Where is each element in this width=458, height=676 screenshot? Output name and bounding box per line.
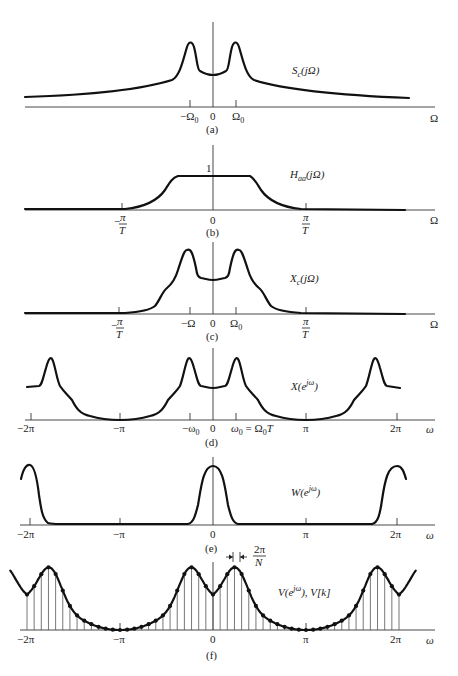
panel-e-curve [21, 465, 406, 524]
panel-d-tick-neg-omega0: −ω0 [182, 422, 199, 437]
panel-f: 2π N V(ejω), V[k] −2π −π 0 π 2π ω (f) [10, 543, 435, 662]
panel-a-function-label: Sc(jΩ) [292, 64, 320, 79]
panel-b-axis-label: Ω [430, 214, 438, 226]
panel-a-tick-neg-omega0: −Ω0 [180, 110, 198, 125]
panel-b-tick-pi-over-t: π T [302, 211, 310, 236]
panel-c-tick-omega0: Ω0 [230, 317, 242, 332]
panel-b-caption: (b) [206, 226, 219, 239]
panel-d-tick-2pi: 2π [390, 422, 402, 434]
panel-f-spacing-annotation: 2π N [226, 543, 266, 568]
svg-text:T: T [302, 224, 309, 236]
spectral-analysis-figure: Sc(jΩ) −Ω0 0 Ω0 Ω (a) 1 Haa(jΩ) − π T 0 … [0, 0, 458, 676]
panel-e-axis-label: ω [426, 529, 434, 541]
svg-text:π: π [120, 211, 126, 223]
panel-d-tick-neg-pi: −π [113, 422, 125, 434]
panel-e-tick-neg-pi: −π [113, 528, 125, 540]
panel-c-tick-zero: 0 [210, 317, 216, 329]
panel-e-function-label: W(ejω) [291, 484, 321, 499]
panel-a-axis-label: Ω [430, 112, 438, 124]
panel-b-curve [25, 176, 405, 210]
panel-d: X(ejω) −2π −π −ω0 0 ω0 = Ω0T π 2π ω (d) [17, 348, 435, 449]
panel-f-tick-zero: 0 [210, 633, 216, 645]
panel-d-tick-zero: 0 [210, 422, 216, 434]
panel-a: Sc(jΩ) −Ω0 0 Ω0 Ω (a) [25, 22, 438, 136]
panel-d-axis-label: ω [426, 423, 434, 435]
svg-text:π: π [303, 315, 309, 327]
panel-e-tick-neg-2pi: −2π [17, 528, 35, 540]
panel-f-function-label: V(ejω), V[k] [278, 584, 330, 599]
svg-text:N: N [254, 556, 263, 568]
panel-e: W(ejω) −2π −π 0 π 2π ω (e) [17, 457, 435, 555]
svg-text:2π: 2π [254, 543, 266, 555]
svg-text:T: T [302, 328, 309, 340]
svg-text:π: π [117, 315, 123, 327]
panel-c-tick-neg-omega: −Ω [181, 317, 195, 329]
panel-c: Xc(jΩ) − π T −Ω 0 Ω0 π T Ω (c) [25, 242, 438, 343]
panel-c-tick-neg-pi-over-t: − π T [111, 315, 124, 340]
panel-f-caption: (f) [206, 649, 217, 662]
panel-d-curve [27, 358, 400, 420]
panel-d-caption: (d) [205, 436, 218, 449]
panel-f-tick-2pi: 2π [390, 633, 402, 645]
panel-e-tick-pi: π [303, 528, 309, 540]
panel-a-tick-omega0: Ω0 [232, 110, 244, 125]
svg-text:π: π [303, 211, 309, 223]
panel-f-tick-pi: π [303, 633, 309, 645]
panel-b: 1 Haa(jΩ) − π T 0 π T Ω (b) [25, 145, 438, 239]
panel-c-function-label: Xc(jΩ) [289, 272, 319, 287]
panel-c-curve [25, 250, 405, 314]
panel-a-caption: (a) [206, 123, 219, 136]
panel-b-tick-neg-pi-over-t: − π T [114, 211, 127, 236]
panel-b-tick-zero: 0 [210, 214, 216, 226]
panel-d-tick-omega0: ω0 = Ω0T [231, 422, 274, 437]
panel-d-tick-neg-2pi: −2π [17, 422, 35, 434]
panel-c-tick-pi-over-t: π T [302, 315, 310, 340]
panel-b-height-label: 1 [206, 162, 212, 174]
svg-text:T: T [116, 328, 123, 340]
panel-f-axis-label: ω [426, 634, 434, 646]
panel-b-function-label: Haa(jΩ) [289, 168, 325, 183]
panel-c-caption: (c) [206, 330, 219, 343]
svg-text:T: T [119, 224, 126, 236]
panel-e-tick-2pi: 2π [390, 528, 402, 540]
panel-e-caption: (e) [205, 542, 218, 555]
panel-f-tick-neg-2pi: −2π [17, 633, 35, 645]
panel-a-curve [25, 43, 409, 99]
panel-c-axis-label: Ω [430, 318, 438, 330]
panel-d-tick-pi: π [303, 422, 309, 434]
panel-d-function-label: X(ejω) [290, 378, 318, 393]
panel-e-tick-zero: 0 [210, 528, 216, 540]
panel-a-tick-zero: 0 [210, 110, 216, 122]
panel-f-tick-neg-pi: −π [113, 633, 125, 645]
